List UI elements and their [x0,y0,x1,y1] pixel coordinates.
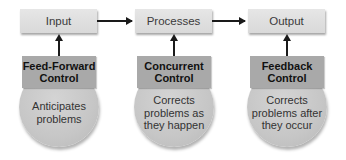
desc-line2: problems [19,113,99,126]
arrow-up-icon [173,36,175,56]
input-box: Input [20,9,97,33]
control-description: Corrects problems as they happen [134,94,214,132]
desc-line3: they occur [247,119,327,132]
desc-line1: Corrects [247,94,327,107]
input-label: Input [46,15,72,27]
output-box: Output [248,9,325,33]
concurrent-control: Concurrent Control Corrects problems as … [134,56,214,150]
arrow-up-icon [58,36,60,56]
processes-box: Processes [135,9,212,33]
desc-line3: they happen [134,119,214,132]
control-header: Feed-Forward Control [22,56,96,88]
control-types-diagram: Input Processes Output Feed-Forward Cont… [0,0,346,160]
control-header: Concurrent Control [137,56,211,88]
control-title-line2: Control [267,72,306,85]
desc-line2: problems after [247,107,327,120]
arrow-right-icon [212,20,245,22]
control-description: Corrects problems after they occur [247,94,327,132]
control-description: Anticipates problems [19,100,99,125]
feedback-control: Feedback Control Corrects problems after… [247,56,327,150]
control-title-line1: Feed-Forward [23,60,96,73]
desc-line1: Anticipates [19,100,99,113]
processes-label: Processes [147,15,201,27]
desc-line1: Corrects [134,94,214,107]
control-title-line1: Concurrent [144,60,203,73]
desc-line2: problems as [134,107,214,120]
control-header: Feedback Control [250,56,324,88]
feed-forward-control: Feed-Forward Control Anticipates problem… [19,56,99,150]
control-title-line1: Feedback [262,60,313,73]
control-title-line2: Control [154,72,193,85]
output-label: Output [269,15,304,27]
arrow-right-icon [97,20,132,22]
control-title-line2: Control [39,72,78,85]
arrow-up-icon [286,36,288,56]
